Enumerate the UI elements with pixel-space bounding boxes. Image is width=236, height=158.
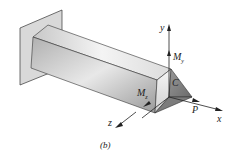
y-axis-label: y	[160, 23, 164, 33]
y-axis-arrowhead	[167, 24, 171, 31]
z-axis-label: z	[108, 118, 112, 128]
moment-y-label: My	[173, 52, 184, 64]
moment-y-sub: y	[181, 58, 184, 64]
moment-z-label: Mz	[137, 88, 148, 100]
my-arrowhead	[167, 50, 171, 56]
moment-z-sub: z	[145, 94, 147, 100]
load-label: P	[192, 105, 198, 115]
p-arrowhead	[192, 98, 200, 102]
figure-caption: (b)	[100, 141, 111, 150]
x-axis-label: x	[217, 114, 221, 124]
cantilever-beam-diagram	[0, 0, 236, 158]
x-axis-arrowhead	[215, 107, 223, 111]
centroid-label: C	[172, 78, 179, 88]
